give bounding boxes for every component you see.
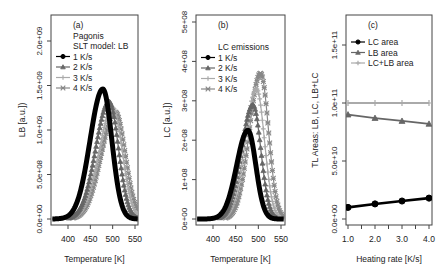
legend: (c)LC areaLB areaLC+LB area [351, 20, 414, 68]
x-tick-label: 400 [61, 234, 75, 244]
y-tick-label: 0e+00 [180, 207, 189, 230]
y-tick-label: 0.0e+00 [330, 204, 339, 234]
x-axis-label: Temperature [K] [64, 254, 124, 264]
circle-marker [61, 54, 65, 58]
plus-marker [257, 97, 262, 102]
triangle-marker [265, 197, 270, 201]
triangle-marker [97, 125, 102, 129]
y-tick-label: 1e+08 [180, 168, 189, 191]
y-tick-label: 5e+08 [180, 10, 189, 33]
circle-marker [426, 195, 432, 201]
x-tick-label: 400 [206, 234, 220, 244]
legend-title: (b) [218, 20, 229, 30]
plus-marker [265, 170, 270, 175]
plus-marker [399, 100, 405, 106]
chart-panel-c: 0.0e+005.0e+101.0e+111.5e+111.02.03.04.0… [310, 15, 435, 264]
legend-title: LC emissions [218, 42, 269, 52]
triangle-marker [261, 168, 266, 172]
data-area [52, 89, 139, 220]
plus-marker [270, 199, 275, 204]
x-axis-label: Temperature [K] [210, 254, 270, 264]
plus-marker [266, 177, 271, 182]
x-tick-label: 550 [274, 234, 288, 244]
legend-label: 3 K/s [218, 74, 237, 84]
triangle-marker [259, 153, 264, 157]
triangle-marker [114, 132, 119, 136]
plus-marker [426, 100, 432, 106]
y-axis-label: LB [a.u.]) [17, 103, 27, 138]
series-LB-area [345, 112, 432, 127]
legend-title: SLT model: LB [73, 41, 129, 51]
circle-marker [372, 201, 378, 207]
circle-marker [356, 40, 360, 44]
plus-marker [263, 144, 268, 149]
x-tick-label: 3.0 [396, 234, 408, 244]
y-tick-label: 5.0e+10 [330, 146, 339, 176]
y-axis-label: LC [a.u.]) [162, 102, 172, 137]
legend: (a)PagonisSLT model: LB1 K/s2 K/s3 K/s4 … [56, 20, 129, 93]
data-area [197, 71, 286, 221]
triangle-marker [122, 188, 127, 192]
triangle-marker [257, 137, 262, 141]
y-tick-label: 0.0e+00 [35, 204, 44, 234]
triangle-marker [94, 144, 99, 148]
series-LC-area [345, 195, 432, 210]
plus-marker [261, 126, 266, 131]
y-tick-label: 1.0e+11 [330, 88, 339, 117]
triangle-marker [113, 120, 118, 124]
figure: 0.0e+005.0e+081.0e+091.5e+092.0e+0940045… [0, 0, 447, 280]
triangle-marker [255, 123, 260, 127]
legend-title: (c) [368, 20, 378, 30]
legend-label: LC area [368, 37, 399, 47]
triangle-marker [115, 139, 120, 143]
triangle-marker [93, 149, 98, 153]
legend-title: (a) [73, 20, 84, 30]
plus-marker [258, 103, 263, 108]
y-tick-label: 2.0e+09 [35, 26, 44, 56]
x-tick-label: 4.0 [423, 234, 435, 244]
legend-label: 1 K/s [218, 53, 237, 63]
triangle-marker [256, 130, 261, 134]
legend-label: 4 K/s [73, 83, 92, 93]
plus-marker [206, 76, 211, 81]
y-axis-label: TL Areas: LB, LC, LB+LC [310, 72, 320, 167]
x-tick-label: 450 [229, 234, 243, 244]
legend-title: Pagonis [73, 31, 104, 41]
plus-marker [269, 194, 274, 199]
circle-marker [399, 198, 405, 204]
triangle-marker [116, 146, 121, 150]
plus-marker [264, 153, 269, 158]
x-tick-label: 1.0 [342, 234, 354, 244]
y-tick-label: 1.5e+09 [35, 70, 44, 100]
x-tick-label: 450 [83, 234, 97, 244]
triangle-marker [96, 134, 101, 138]
triangle-marker [260, 161, 265, 165]
legend-label: 2 K/s [218, 63, 237, 73]
x-tick-label: 550 [128, 234, 142, 244]
y-tick-label: 4e+08 [180, 50, 189, 73]
triangle-marker [118, 159, 123, 163]
legend-label: 4 K/s [218, 84, 237, 94]
star-marker [61, 86, 66, 91]
plus-marker [265, 162, 270, 167]
plus-marker [267, 184, 272, 189]
legend-label: LB area [368, 48, 398, 58]
x-tick-label: 500 [251, 234, 265, 244]
chart-panel-a: 0.0e+005.0e+081.0e+091.5e+092.0e+0940045… [17, 15, 142, 264]
legend-label: 2 K/s [73, 62, 92, 72]
triangle-marker [123, 192, 128, 196]
plus-marker [61, 75, 66, 80]
y-tick-label: 1.0e+09 [35, 115, 44, 145]
star-marker [206, 87, 211, 92]
triangle-marker [264, 188, 269, 192]
triangle-marker [255, 116, 260, 120]
triangle-marker [263, 182, 268, 186]
series-line [348, 198, 429, 207]
x-tick-label: 500 [106, 234, 120, 244]
y-tick-label: 2e+08 [180, 128, 189, 151]
plus-marker [372, 100, 378, 106]
chart-panel-b: 0e+001e+082e+083e+084e+085e+084004505005… [162, 10, 288, 264]
circle-marker [206, 55, 210, 59]
triangle-marker [262, 175, 267, 179]
plus-marker [268, 189, 273, 194]
